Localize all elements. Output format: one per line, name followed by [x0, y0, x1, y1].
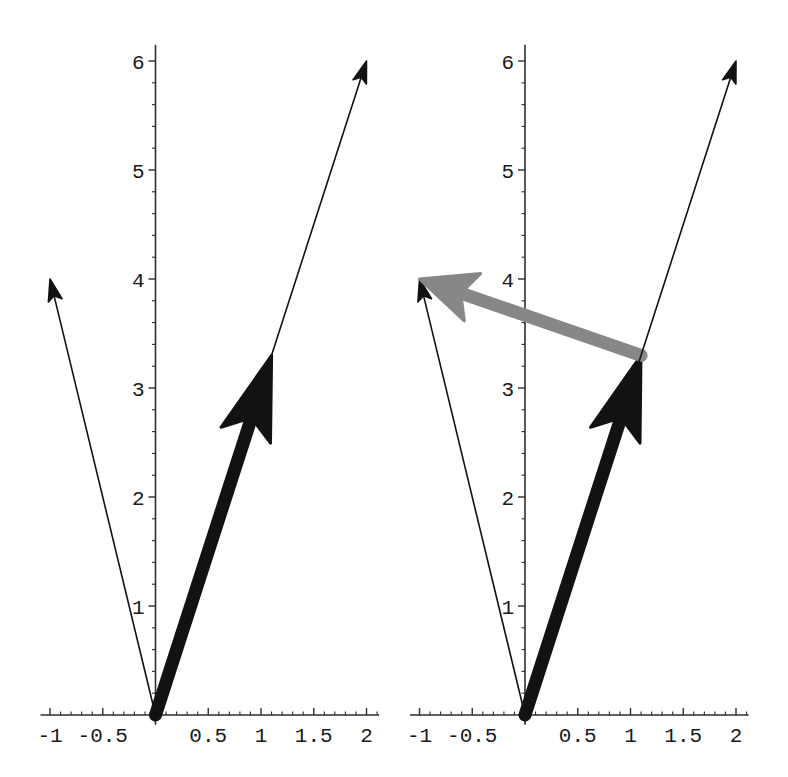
x-tick-label: 0.5	[189, 725, 227, 748]
y-tick-label: 4	[132, 270, 145, 293]
y-tick-label: 6	[132, 52, 145, 75]
x-tick-label: -1	[407, 725, 432, 748]
x-tick-label: 1.5	[295, 725, 333, 748]
vector-origin-to-2-6	[525, 61, 736, 715]
x-tick-label: 2	[360, 725, 373, 748]
x-tick-label: 2	[730, 725, 743, 748]
y-tick-label: 4	[501, 270, 514, 293]
x-tick-label: -0.5	[447, 725, 497, 748]
y-tick-label: 6	[501, 52, 514, 75]
vector-shaft	[525, 77, 731, 715]
x-tick-label: 1.5	[664, 725, 702, 748]
x-tick-label: -1	[37, 725, 62, 748]
vector-figure: -1-0.50.511.52123456-1-0.50.511.52123456	[0, 0, 788, 777]
x-tick-label: 1	[255, 725, 268, 748]
y-tick-label: 3	[501, 379, 514, 402]
x-tick-label: 0.5	[559, 725, 597, 748]
y-tick-label: 1	[132, 597, 145, 620]
vector-plot-left: -1-0.50.511.52123456	[37, 45, 379, 748]
y-tick-label: 1	[501, 597, 514, 620]
y-tick-label: 3	[132, 379, 145, 402]
x-tick-label: 1	[624, 725, 637, 748]
y-tick-label: 5	[501, 161, 514, 184]
y-tick-label: 2	[132, 488, 145, 511]
y-tick-label: 2	[501, 488, 514, 511]
vector-shaft	[156, 77, 362, 715]
y-tick-label: 5	[132, 161, 145, 184]
vector-difference-gray	[420, 274, 642, 356]
vector-plot-right: -1-0.50.511.52123456	[407, 45, 749, 748]
vector-origin-to-2-6	[156, 61, 367, 715]
x-tick-label: -0.5	[78, 725, 128, 748]
vector-shaft	[461, 293, 641, 355]
figure-canvas: -1-0.50.511.52123456-1-0.50.511.52123456	[0, 0, 788, 777]
